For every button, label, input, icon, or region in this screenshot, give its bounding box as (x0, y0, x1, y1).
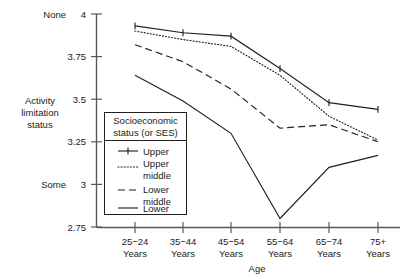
y-tick-label-2.75: 2.75 (68, 222, 87, 233)
x-tick-label-3-range: 55−64 (267, 236, 294, 247)
x-tick-label-5-range: 75+ (370, 236, 387, 247)
x-tick-label-2-unit: Years (219, 248, 243, 259)
x-tick-labels: 25−24 Years 35−44 Years 45−54 Years 55−6… (122, 236, 391, 259)
chart-container: 4 3.75 3.5 3.25 3 2.75 None Some Activit… (0, 0, 408, 279)
legend-title-line-2: status (or SES) (113, 127, 177, 138)
y-tick-label-3.25: 3.25 (68, 136, 87, 147)
series-markers-upper (135, 23, 378, 113)
line-chart: 4 3.75 3.5 3.25 3 2.75 None Some Activit… (0, 0, 408, 279)
legend-label-upper-middle-line-2: middle (143, 170, 171, 181)
y-tick-label-3: 3 (81, 179, 86, 190)
legend-title-line-1: Socioeconomic (113, 115, 178, 126)
x-axis-title: Age (249, 263, 266, 274)
x-tick-label-2-range: 45−54 (218, 236, 245, 247)
x-tick-label-4-range: 65−74 (316, 236, 343, 247)
x-tick-label-1-range: 35−44 (170, 236, 197, 247)
y-axis-anchor-none: None (43, 9, 66, 20)
legend-label-upper-middle-line-1: Upper (143, 158, 169, 169)
y-tick-labels: 4 3.75 3.5 3.25 3 2.75 (68, 9, 87, 233)
x-tick-label-3-unit: Years (268, 248, 292, 259)
y-axis-title-line-1: Activity (25, 95, 55, 106)
x-tick-label-0-unit: Years (123, 248, 147, 259)
y-tick-label-3.5: 3.5 (73, 94, 86, 105)
legend-label-upper: Upper (143, 146, 169, 157)
x-tick-label-0-range: 25−24 (122, 236, 149, 247)
x-tick-label-5-unit: Years (366, 248, 390, 259)
series-line-upper (135, 26, 378, 109)
y-axis-anchor-some: Some (41, 179, 66, 190)
legend-label-lower: Lower (143, 203, 169, 214)
y-axis-title-line-2: limitation (21, 107, 59, 118)
x-tick-label-1-unit: Years (171, 248, 195, 259)
y-axis-title: Activity limitation status (21, 95, 59, 130)
y-axis-title-line-3: status (27, 119, 53, 130)
legend-label-lower-middle-line-1: Lower (143, 184, 169, 195)
y-tick-label-4: 4 (81, 9, 86, 20)
legend: Socioeconomic status (or SES) Upper Uppe… (105, 113, 187, 215)
y-tick-label-3.75: 3.75 (68, 51, 87, 62)
x-tick-label-4-unit: Years (317, 248, 341, 259)
